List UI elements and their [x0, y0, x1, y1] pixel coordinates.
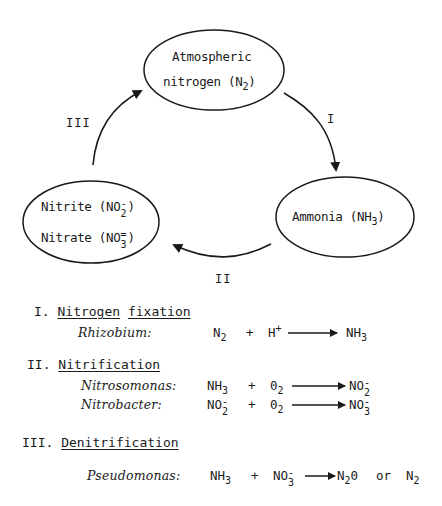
text: H	[268, 325, 276, 340]
reaction-fixation-reactant-2: H+	[268, 327, 282, 340]
subscript: 3	[120, 240, 126, 250]
process-heading-nitrogen-fixation: I. Nitrogen fixation	[34, 305, 191, 318]
reaction-pseudomonas-or: or	[376, 470, 391, 483]
reaction-nitrosomonas-plus: +	[248, 380, 256, 393]
text: NH	[346, 325, 361, 340]
process-numeral: II.	[27, 357, 50, 372]
node-nitrate-label: Nitrate (NO=3)	[41, 232, 135, 245]
process-numeral: III.	[22, 435, 53, 450]
arrow-label-iii: III	[66, 117, 91, 129]
text: 0	[270, 397, 278, 412]
reaction-nitrosomonas-reactant-1: NH3	[207, 380, 228, 393]
node-ammonia-label: Ammonia (NH3)	[292, 211, 384, 224]
text: N	[406, 468, 414, 483]
node-nitrite-label: Nitrite (NO-2)	[41, 201, 135, 214]
text: Nitrate (NO	[41, 230, 120, 245]
subscript: 2	[414, 475, 420, 486]
subscript: 3	[288, 478, 294, 488]
subscript: 2	[278, 404, 284, 415]
superscript: +	[276, 323, 282, 334]
arrow-ii	[174, 244, 271, 257]
reaction-nitrobacter-plus: +	[248, 399, 256, 412]
subscript: 2	[221, 332, 227, 343]
reaction-pseudomonas-reactant-1: NH3	[210, 470, 231, 483]
text: NH	[210, 468, 225, 483]
text: NO	[349, 378, 364, 393]
text: NO	[207, 397, 222, 412]
node-atmospheric-nitrogen-ellipse	[144, 30, 284, 110]
subscript: 3	[225, 475, 231, 486]
subscript: 2	[120, 209, 126, 219]
organism-nitrobacter: Nitrobacter:	[81, 399, 162, 412]
reaction-pseudomonas-reactant-2: NO-3	[273, 470, 295, 483]
organism-rhizobium: Rhizobium:	[78, 327, 152, 340]
node-nitrite-nitrate-ellipse	[23, 181, 159, 263]
text: N	[337, 468, 345, 483]
arrow-label-ii: II	[215, 273, 231, 285]
reaction-pseudomonas-product-2: N2	[406, 470, 420, 483]
reaction-pseudomonas-plus: +	[251, 470, 259, 483]
organism-pseudomonas: Pseudomonas:	[87, 470, 180, 483]
process-title-word: Nitrogen	[57, 304, 120, 319]
reaction-nitrobacter-product: NO-3	[349, 399, 371, 412]
subscript: 2	[222, 407, 228, 417]
text: N	[213, 325, 221, 340]
process-title-word: Nitrification	[58, 357, 160, 372]
reaction-pseudomonas-product-1: N20	[337, 470, 358, 483]
process-heading-nitrification: II. Nitrification	[27, 358, 160, 371]
text: nitrogen (N	[163, 74, 242, 89]
text: )	[127, 199, 134, 214]
node-atmospheric-label-line2: nitrogen (N2)	[163, 76, 255, 89]
arrow-label-i: I	[327, 113, 335, 125]
subscript: 2	[278, 385, 284, 396]
text: NO	[273, 468, 288, 483]
subscript: 3	[361, 332, 367, 343]
text: 0	[351, 468, 359, 483]
arrow-i	[284, 93, 336, 170]
text: )	[127, 230, 134, 245]
reaction-fixation-product: NH3	[346, 327, 367, 340]
text: )	[248, 74, 255, 89]
subscript: 3	[364, 407, 370, 417]
reaction-nitrobacter-reactant-1: NO-2	[207, 399, 229, 412]
text: )	[377, 209, 384, 224]
reaction-fixation-plus: +	[246, 327, 254, 340]
process-title-word: fixation	[128, 304, 191, 319]
process-numeral: I.	[34, 304, 50, 319]
process-title-word: Denitrification	[61, 435, 178, 450]
text: NH	[207, 378, 222, 393]
text: 0	[270, 378, 278, 393]
process-heading-denitrification: III. Denitrification	[22, 436, 179, 449]
text: Nitrite (NO	[41, 199, 120, 214]
reaction-nitrobacter-reactant-2: 02	[270, 399, 284, 412]
text: Ammonia (NH	[292, 209, 371, 224]
text: NO	[349, 397, 364, 412]
subscript: 3	[222, 385, 228, 396]
arrow-iii	[93, 91, 141, 165]
reaction-nitrosomonas-reactant-2: 02	[270, 380, 284, 393]
reaction-nitrosomonas-product: NO-2	[349, 380, 371, 393]
organism-nitrosomonas: Nitrosomonas:	[81, 380, 177, 393]
reaction-fixation-reactant-1: N2	[213, 327, 227, 340]
node-atmospheric-label-line1: Atmospheric	[172, 51, 251, 64]
